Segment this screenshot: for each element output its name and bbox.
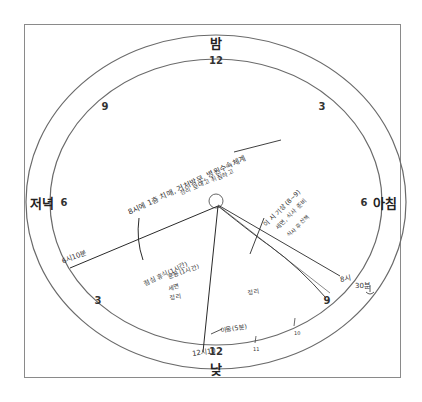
noon-time-line [203, 206, 218, 352]
tick-label-11: 11 [253, 346, 259, 352]
morning-note: 30분 [355, 280, 370, 290]
hour-6-right: 6 [361, 197, 368, 208]
tick-label-10: 10 [294, 330, 300, 336]
evening-time-line [70, 206, 218, 268]
period-label-morning: 아침 [373, 193, 397, 212]
period-label-evening: 저녁 [30, 193, 54, 212]
hour-9-top-left: 9 [102, 101, 109, 112]
outer-ring [26, 35, 406, 369]
hour-6-left: 6 [61, 197, 68, 208]
period-label-day: 낮 [210, 359, 222, 378]
hour-3-top-right: 3 [319, 101, 326, 112]
hour-3-bottom-left: 3 [95, 295, 102, 306]
morning-line-label: 8시 [339, 272, 351, 284]
center-circle [209, 194, 223, 208]
hour-9-bottom-right: 9 [324, 295, 331, 306]
tick-10 [294, 318, 295, 326]
note-underline [234, 140, 281, 152]
tick-11 [255, 336, 256, 343]
hour-12-top: 12 [209, 55, 223, 66]
period-label-night: 밤 [210, 33, 222, 52]
evening-bracket [138, 218, 143, 260]
